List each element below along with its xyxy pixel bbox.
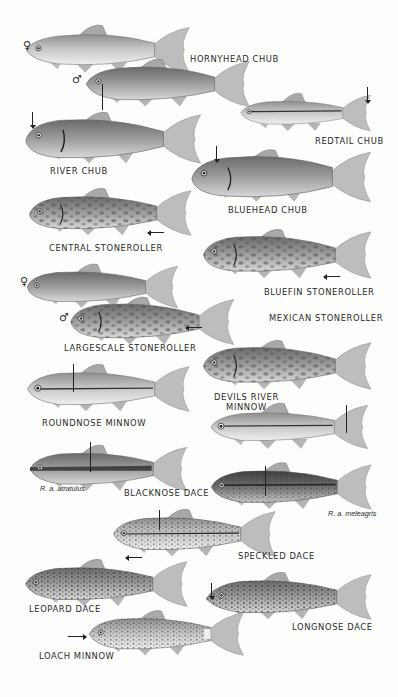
label-bluefin-stoneroller: BLUEFIN STONEROLLER xyxy=(264,287,374,297)
fin-pointer-arrow xyxy=(188,327,202,328)
tail-pointer-arrow xyxy=(367,87,368,101)
head-hump-pointer-arrow xyxy=(216,146,217,160)
male-symbol: ♂ xyxy=(72,74,82,85)
stripe-pointer xyxy=(265,466,266,496)
hornyhead-chub-male-illustration xyxy=(82,58,257,110)
fin-pointer-arrow xyxy=(326,276,340,277)
fish-identification-plate: ♀ HORNYHEAD CHUB ♂ REDTAIL CHUB RIVER CH… xyxy=(0,0,398,697)
central-stoneroller-illustration xyxy=(26,186,198,240)
leopard-dace-illustration xyxy=(22,558,194,610)
female-symbol: ♀ xyxy=(20,276,28,287)
caudal-spot-pointer xyxy=(346,405,347,433)
label-line-1: DEVILS RIVER xyxy=(214,392,279,402)
label-speckled-dace: SPECKLED DACE xyxy=(238,551,315,561)
subspecies-meleagris: R. a. meleagris xyxy=(328,509,376,518)
minnow-illustration xyxy=(206,402,376,452)
label-redtail-chub: REDTAIL CHUB xyxy=(315,136,384,146)
label-river-chub: RIVER CHUB xyxy=(50,166,108,176)
female-symbol: ♀ xyxy=(23,40,31,51)
bluefin-stoneroller-illustration xyxy=(200,226,378,284)
lateral-line-pointer xyxy=(73,364,74,392)
subspecies-atratulus: R. a. atratulus xyxy=(40,484,85,493)
fin-pointer-arrow xyxy=(150,232,164,233)
red-spot-pointer xyxy=(102,84,103,110)
devils-river-minnow-illustration xyxy=(200,338,378,394)
label-longnose-dace: LONGNOSE DACE xyxy=(292,622,373,632)
redtail-chub-illustration xyxy=(238,92,376,134)
label-bluehead-chub: BLUEHEAD CHUB xyxy=(228,205,308,215)
label-loach-minnow: LOACH MINNOW xyxy=(39,651,115,661)
pointer xyxy=(159,510,160,530)
blacknose-dace-meleagris-illustration xyxy=(208,460,378,514)
male-symbol: ♂ xyxy=(59,312,69,323)
river-chub-illustration xyxy=(22,110,208,168)
label-mexican-stoneroller: MEXICAN STONEROLLER xyxy=(269,313,383,323)
label-largescale-stoneroller: LARGESCALE STONEROLLER xyxy=(64,343,196,353)
label-central-stoneroller: CENTRAL STONEROLLER xyxy=(49,243,163,253)
stripe-pointer xyxy=(90,442,91,472)
label-blacknose-dace: BLACKNOSE DACE xyxy=(124,488,209,498)
roundnose-minnow-illustration xyxy=(24,362,196,416)
snout-pointer-arrow xyxy=(68,636,84,637)
head-tubercle-pointer-arrow xyxy=(32,112,33,126)
label-roundnose-minnow: ROUNDNOSE MINNOW xyxy=(42,418,146,428)
snout-pointer-arrow xyxy=(211,583,212,597)
